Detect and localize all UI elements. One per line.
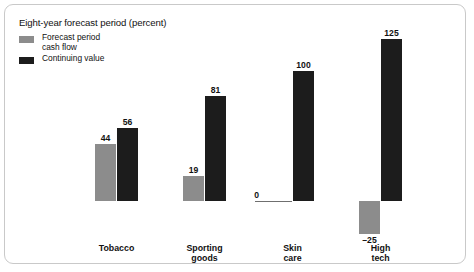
category-label-line2: goods	[191, 253, 217, 263]
category-label-line1: Sporting	[186, 243, 222, 253]
category-label-line1: High	[371, 243, 391, 253]
bar-value-label: 81	[199, 85, 232, 95]
category-label-line2: care	[283, 253, 301, 263]
category-label: Sportinggoods	[163, 244, 246, 264]
category-label: Hightech	[339, 244, 422, 264]
bar-forecast	[359, 201, 380, 234]
category-label-line2: tech	[371, 253, 389, 263]
bar-continuing	[381, 39, 402, 202]
bar-value-label: 0	[241, 190, 259, 200]
bar-forecast	[183, 176, 204, 201]
plot-area: 44190–255681100125TobaccoSportinggoodsSk…	[5, 5, 465, 263]
category-label: Tobacco	[75, 244, 158, 254]
zero-baseline-rule	[255, 201, 292, 202]
bar-continuing	[117, 128, 138, 201]
bar-value-label: 56	[111, 117, 144, 127]
category-label-line1: Skin	[283, 243, 302, 253]
bar-forecast	[95, 144, 116, 201]
bar-value-label: 125	[375, 28, 408, 38]
chart-panel: Eight-year forecast period (percent) For…	[4, 4, 466, 264]
category-label-line1: Tobacco	[99, 243, 135, 253]
bar-continuing	[205, 96, 226, 201]
bar-continuing	[293, 71, 314, 201]
bar-value-label: 100	[287, 60, 320, 70]
category-label: Skincare	[251, 244, 334, 264]
